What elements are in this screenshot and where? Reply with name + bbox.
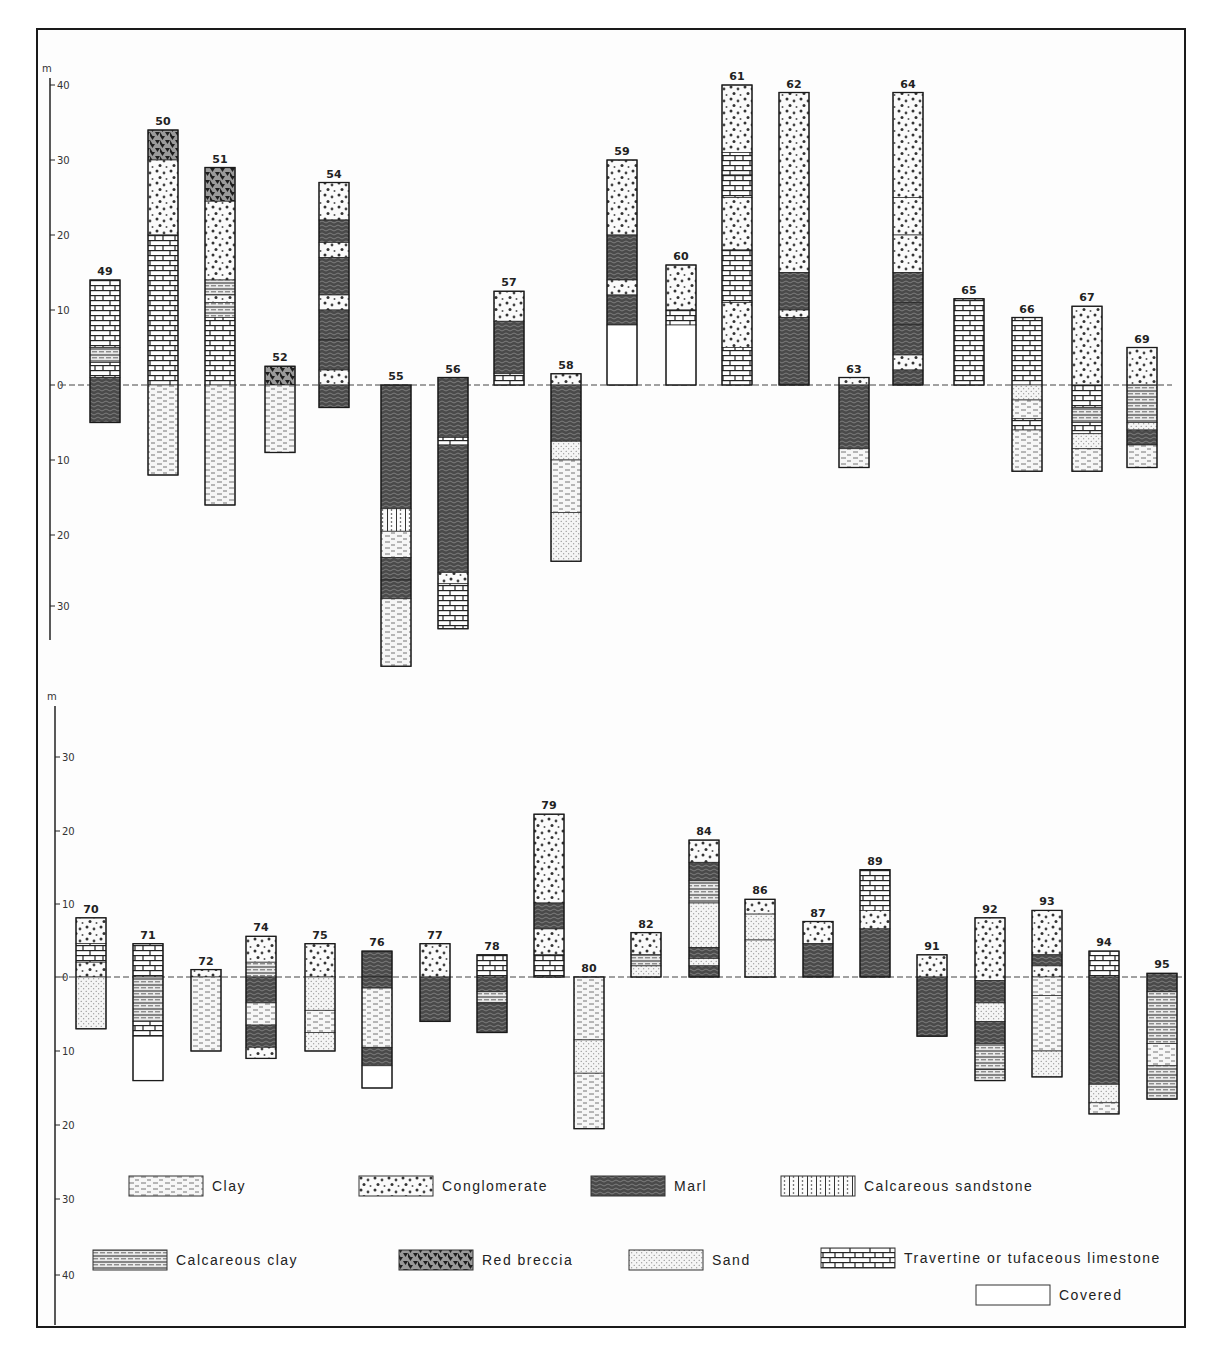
layer-travertine: [477, 955, 507, 977]
panel-lower: m302010010203040707172747576777879808284…: [47, 691, 1185, 1325]
layer-conglomerate: [246, 1047, 276, 1058]
layer-clay: [574, 977, 604, 1040]
y-tick-label: 40: [57, 80, 70, 91]
layer-conglomerate: [893, 235, 923, 273]
layer-marl: [362, 977, 392, 988]
layer-travertine: [534, 955, 564, 977]
layer-conglomerate: [893, 93, 923, 198]
layer-travertine: [722, 348, 752, 386]
column-number-label: 76: [369, 936, 385, 949]
layer-marl: [381, 385, 411, 509]
column-number-label: 79: [541, 799, 556, 812]
legend-item-covered: Covered: [975, 1282, 1122, 1308]
legend-swatch-clay-icon: [128, 1175, 204, 1197]
layer-marl: [893, 370, 923, 385]
layer-travertine: [90, 280, 120, 348]
layer-clay: [1072, 449, 1102, 472]
legend-label: Travertine or tufaceous limestone: [904, 1250, 1161, 1266]
layer-calc-clay: [205, 280, 235, 295]
layer-travertine: [722, 250, 752, 303]
y-tick-label: 10: [62, 899, 75, 910]
section-column-92: 92: [975, 903, 1005, 1081]
legend-item-red-breccia: Red breccia: [398, 1247, 573, 1273]
layer-sand: [745, 914, 775, 940]
layer-red-breccia: [148, 130, 178, 160]
column-number-label: 71: [140, 929, 155, 942]
column-number-label: 64: [900, 78, 916, 91]
section-column-51: 51: [205, 153, 235, 506]
layer-marl: [689, 966, 719, 977]
legend-swatch-red-breccia-icon: [398, 1249, 474, 1271]
layer-travertine: [438, 438, 468, 446]
legend-label: Sand: [712, 1252, 751, 1268]
legend-item-marl: Marl: [590, 1173, 707, 1199]
layer-marl: [607, 235, 637, 280]
y-tick-label: 20: [62, 826, 75, 837]
layer-covered: [666, 325, 696, 385]
y-tick-label: 30: [57, 601, 70, 612]
layer-sand: [574, 1040, 604, 1073]
section-column-95: 95: [1147, 958, 1177, 1099]
section-column-74: 74: [246, 921, 276, 1058]
section-column-57: 57: [494, 276, 524, 385]
layer-travertine: [1072, 385, 1102, 408]
layer-marl: [551, 385, 581, 441]
layer-marl: [803, 944, 833, 977]
column-number-label: 78: [484, 940, 499, 953]
legend-item-conglomerate: Conglomerate: [358, 1173, 548, 1199]
y-tick-label: 20: [62, 1120, 75, 1131]
layer-conglomerate: [779, 310, 809, 318]
layer-conglomerate: [689, 840, 719, 862]
layer-marl: [438, 378, 468, 438]
section-column-93: 93: [1032, 895, 1062, 1077]
layer-marl: [246, 1025, 276, 1047]
layer-conglomerate: [722, 198, 752, 251]
section-column-78: 78: [477, 940, 507, 1033]
layer-covered: [133, 1036, 163, 1080]
layer-conglomerate: [1032, 910, 1062, 954]
layer-marl: [477, 1003, 507, 1033]
column-number-label: 61: [729, 70, 744, 83]
layer-clay: [1089, 1103, 1119, 1114]
legend-item-sand: Sand: [628, 1247, 751, 1273]
layer-clay: [1012, 400, 1042, 419]
layer-marl: [860, 929, 890, 977]
column-number-label: 60: [673, 250, 689, 263]
panel-upper: m403020100102030495051525455565758596061…: [42, 63, 1172, 666]
column-number-label: 51: [212, 153, 227, 166]
layer-conglomerate: [205, 201, 235, 280]
layer-travertine: [860, 870, 890, 911]
layer-conglomerate: [779, 93, 809, 273]
legend-item-calc-sandstone: Calcareous sandstone: [780, 1173, 1033, 1199]
layer-conglomerate: [534, 929, 564, 955]
column-number-label: 84: [696, 825, 712, 838]
layer-marl: [246, 977, 276, 1003]
column-number-label: 69: [1134, 333, 1149, 346]
layer-sand: [1127, 423, 1157, 431]
axis-unit-label: m: [47, 691, 57, 702]
layer-calc-clay: [631, 955, 661, 966]
layer-clay: [148, 385, 178, 475]
layer-travertine: [205, 318, 235, 386]
layer-marl: [839, 385, 869, 449]
column-number-label: 50: [155, 115, 171, 128]
legend-swatch-calc-sandstone-icon: [780, 1175, 856, 1197]
layer-calc-clay: [1072, 408, 1102, 423]
layer-sand: [1072, 434, 1102, 449]
layer-red-breccia: [265, 366, 295, 385]
column-number-label: 72: [198, 955, 213, 968]
column-number-label: 55: [388, 370, 403, 383]
layer-clay: [1127, 445, 1157, 468]
column-number-label: 52: [272, 351, 287, 364]
section-column-67: 67: [1072, 291, 1102, 471]
column-number-label: 54: [326, 168, 342, 181]
layer-clay: [1012, 430, 1042, 471]
legend-label: Covered: [1059, 1287, 1122, 1303]
column-number-label: 59: [614, 145, 629, 158]
layer-conglomerate: [420, 944, 450, 977]
section-column-59: 59: [607, 145, 637, 385]
layer-conglomerate: [305, 944, 335, 977]
layer-travertine: [133, 944, 163, 977]
layer-marl: [689, 947, 719, 958]
layer-covered: [607, 325, 637, 385]
